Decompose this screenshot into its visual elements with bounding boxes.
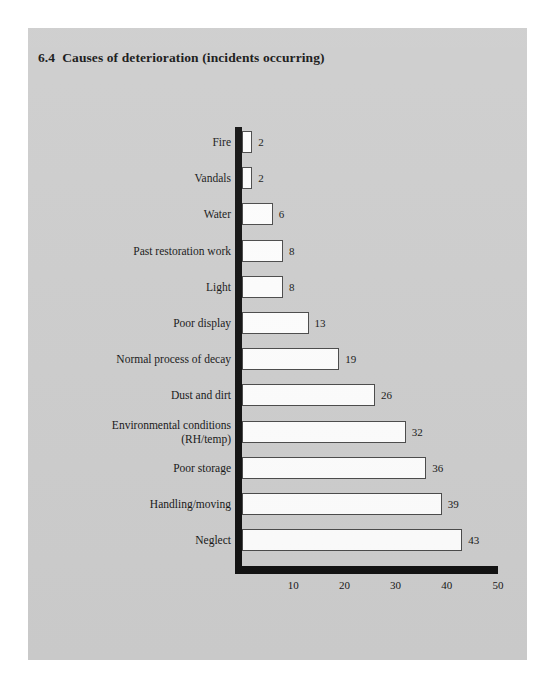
value-axis-tick-label: 40: [441, 579, 452, 591]
bar: [242, 384, 375, 406]
bar-row: Poor display13: [28, 312, 527, 334]
bar-value-label: 13: [309, 317, 326, 329]
bar-value-label: 19: [339, 353, 356, 365]
bar-value-label: 2: [252, 136, 264, 148]
bar-value-label: 8: [283, 281, 295, 293]
bar: [242, 131, 252, 153]
bar: [242, 493, 442, 515]
bar: [242, 167, 252, 189]
bar-value-label: 43: [462, 534, 479, 546]
bar-category-label: Light: [0, 280, 231, 294]
bar-row: Past restoration work8: [28, 240, 527, 262]
bar-row: Environmental conditions (RH/temp)32: [28, 421, 527, 443]
bar-category-label: Poor display: [0, 316, 231, 330]
value-axis: [235, 566, 498, 574]
bar: [242, 312, 309, 334]
bar-value-label: 32: [406, 426, 423, 438]
bar-category-label: Environmental conditions (RH/temp): [0, 418, 231, 446]
bar-category-label: Normal process of decay: [0, 352, 231, 366]
bar-category-label: Dust and dirt: [0, 388, 231, 402]
bar-row: Vandals2: [28, 167, 527, 189]
bar-row: Normal process of decay19: [28, 348, 527, 370]
bar-category-label: Water: [0, 207, 231, 221]
bar: [242, 529, 462, 551]
bar-row: Neglect43: [28, 529, 527, 551]
bar-value-label: 39: [442, 498, 459, 510]
bar-category-label: Poor storage: [0, 461, 231, 475]
value-axis-tick-label: 50: [493, 579, 504, 591]
figure-page: 6.4Causes of deterioration (incidents oc…: [28, 28, 527, 660]
bar-category-label: Handling/moving: [0, 497, 231, 511]
bar-row: Handling/moving39: [28, 493, 527, 515]
bar-category-label: Past restoration work: [0, 244, 231, 258]
value-axis-tick-label: 20: [339, 579, 350, 591]
bar: [242, 348, 339, 370]
bar: [242, 203, 273, 225]
bar-row: Fire2: [28, 131, 527, 153]
value-axis-tick-label: 10: [288, 579, 299, 591]
bar-value-label: 36: [426, 462, 443, 474]
bar-value-label: 6: [273, 208, 285, 220]
bar-value-label: 26: [375, 389, 392, 401]
bar-category-label: Fire: [0, 135, 231, 149]
bar: [242, 240, 283, 262]
value-axis-tick-label: 30: [390, 579, 401, 591]
bar-row: Light8: [28, 276, 527, 298]
bar-value-label: 8: [283, 245, 295, 257]
bar-chart-plot: Fire2Vandals2Water6Past restoration work…: [28, 28, 527, 660]
bar-row: Dust and dirt26: [28, 384, 527, 406]
bar: [242, 421, 406, 443]
bar: [242, 457, 426, 479]
bar-category-label: Neglect: [0, 533, 231, 547]
bar-row: Poor storage36: [28, 457, 527, 479]
bar-value-label: 2: [252, 172, 264, 184]
bar-row: Water6: [28, 203, 527, 225]
bar-category-label: Vandals: [0, 171, 231, 185]
bar: [242, 276, 283, 298]
